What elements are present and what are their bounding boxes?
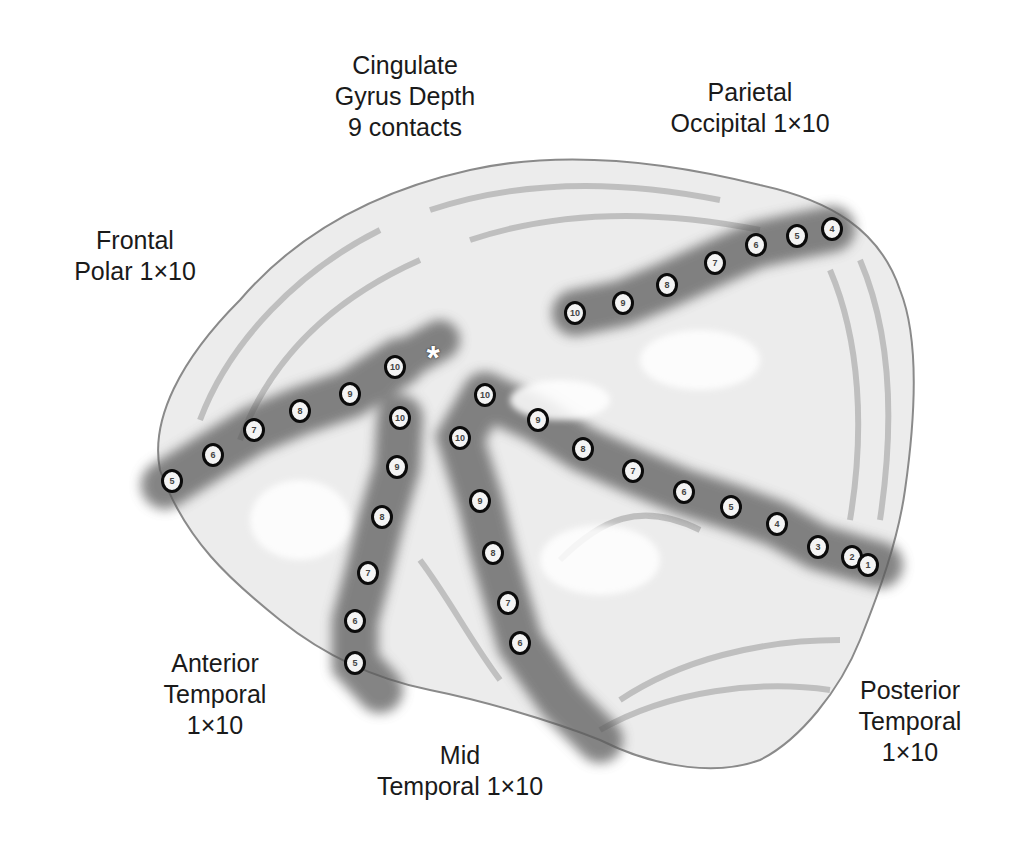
label-posterior-temporal: Posterior Temporal 1×10 (835, 675, 985, 768)
contact-mid-temporal: 8 (482, 541, 504, 565)
contact-mid-temporal: 9 (469, 489, 491, 513)
contact-posterior-temporal: 3 (807, 535, 829, 559)
contact-posterior-temporal: 6 (673, 480, 695, 504)
contact-frontal-polar: 10 (384, 355, 406, 379)
contact-parietal-occipital: 10 (564, 301, 586, 325)
contact-anterior-temporal: 5 (344, 651, 366, 675)
contact-anterior-temporal: 9 (386, 455, 408, 479)
contact-anterior-temporal: 10 (389, 406, 411, 430)
contact-mid-temporal: 6 (509, 631, 531, 655)
asterisk-marker: * (426, 338, 439, 377)
contact-parietal-occipital: 6 (745, 233, 767, 257)
label-mid-temporal: Mid Temporal 1×10 (355, 740, 565, 802)
contact-frontal-polar: 8 (289, 399, 311, 423)
contact-frontal-polar: 5 (161, 469, 183, 493)
contact-parietal-occipital: 7 (704, 251, 726, 275)
contact-parietal-occipital: 9 (612, 291, 634, 315)
contact-anterior-temporal: 8 (371, 505, 393, 529)
contact-frontal-polar: 9 (339, 382, 361, 406)
contact-anterior-temporal: 7 (357, 561, 379, 585)
contact-posterior-temporal: 4 (766, 512, 788, 536)
contact-posterior-temporal: 5 (720, 495, 742, 519)
contact-mid-temporal: 10 (474, 383, 496, 407)
contact-parietal-occipital: 4 (821, 217, 843, 241)
label-cingulate: Cingulate Gyrus Depth 9 contacts (305, 50, 505, 143)
contact-frontal-polar: 6 (202, 443, 224, 467)
contact-posterior-temporal: 7 (622, 459, 644, 483)
contact-anterior-temporal: 6 (344, 609, 366, 633)
contact-posterior-temporal: 9 (527, 408, 549, 432)
contact-posterior-temporal: 8 (572, 437, 594, 461)
contact-posterior-temporal: 1 (857, 553, 879, 577)
label-frontal-polar: Frontal Polar 1×10 (40, 225, 230, 287)
contact-mid-temporal: 10 (449, 426, 471, 450)
contact-frontal-polar: 7 (243, 418, 265, 442)
contact-parietal-occipital: 8 (656, 273, 678, 297)
contact-parietal-occipital: 5 (786, 224, 808, 248)
label-parietal-occipital: Parietal Occipital 1×10 (640, 77, 860, 139)
label-anterior-temporal: Anterior Temporal 1×10 (140, 648, 290, 741)
contact-mid-temporal: 7 (497, 591, 519, 615)
